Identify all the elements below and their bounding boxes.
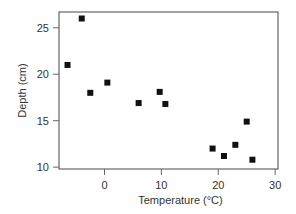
scatter-chart: 10152025 0102030 Temperature (°C) Depth … (0, 0, 296, 214)
data-point-marker (79, 16, 85, 22)
x-tick-label: 0 (101, 179, 107, 191)
y-axis-label: Depth (cm) (16, 63, 28, 117)
data-point-marker (162, 101, 168, 107)
data-point-marker (210, 146, 216, 152)
data-point-marker (104, 80, 110, 86)
y-tick-label: 15 (37, 115, 49, 127)
data-point-marker (244, 119, 250, 125)
y-tick-label: 10 (37, 161, 49, 173)
data-point-marker (136, 100, 142, 106)
x-tick-label: 30 (269, 179, 281, 191)
data-point-marker (87, 90, 93, 96)
x-tick-label: 10 (155, 179, 167, 191)
data-point-marker (65, 62, 71, 68)
x-tick-label: 20 (212, 179, 224, 191)
data-point-marker (232, 142, 238, 148)
data-points (65, 16, 256, 163)
y-axis-ticks: 10152025 (37, 22, 59, 173)
y-tick-label: 25 (37, 22, 49, 34)
data-point-marker (157, 89, 163, 95)
data-point-marker (249, 157, 255, 163)
x-axis-label: Temperature (°C) (138, 194, 222, 206)
x-axis-ticks: 0102030 (101, 169, 281, 191)
y-tick-label: 20 (37, 68, 49, 80)
data-point-marker (221, 153, 227, 159)
